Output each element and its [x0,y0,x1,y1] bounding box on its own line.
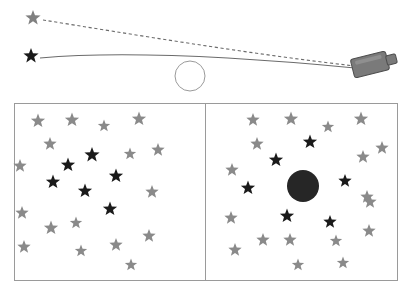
camera-lens [385,54,397,66]
light-bending-diagram [23,10,398,91]
lensing-mass [175,61,205,91]
apparent-light-path [43,20,355,66]
actual-light-path [40,55,355,68]
true-star-position [23,48,38,62]
occulting-black-hole [287,170,319,202]
figure-canvas [0,0,411,297]
apparent-star-position [25,10,40,24]
gravitational-lensing-figure [0,0,411,297]
star-field-panels [13,104,397,281]
observer-telescope [350,49,398,78]
